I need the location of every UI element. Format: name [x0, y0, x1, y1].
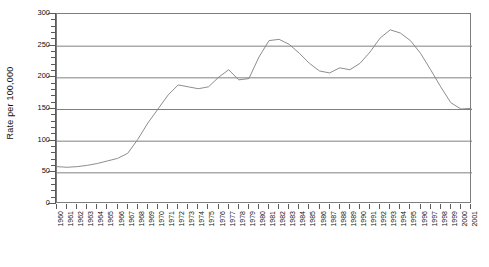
- y-axis-tick-minor: [51, 57, 56, 58]
- x-axis-tick: [66, 204, 67, 209]
- x-axis-tick: [470, 204, 471, 209]
- y-axis-tick-minor: [51, 165, 56, 166]
- y-axis-tick-minor: [51, 127, 56, 128]
- y-axis-tick-minor: [51, 83, 56, 84]
- y-axis-tick-minor: [51, 121, 56, 122]
- x-axis-tick-label: 1968: [132, 211, 142, 251]
- y-axis-tick-minor: [51, 95, 56, 96]
- y-axis-tick-minor: [51, 102, 56, 103]
- y-axis-tick-major: [48, 13, 56, 14]
- x-axis-tick-label: 1992: [374, 211, 384, 251]
- y-axis-tick-minor: [51, 32, 56, 33]
- x-axis-tick-label: 1985: [303, 211, 313, 251]
- y-axis-tick-minor: [51, 133, 56, 134]
- x-axis-tick: [278, 204, 279, 209]
- line-chart: Rate per 100,000 300250200150100500 1960…: [0, 0, 489, 267]
- y-axis-tick-major: [48, 140, 56, 141]
- x-axis-tick-label: 1971: [162, 211, 172, 251]
- x-axis-tick-label-text: 2001: [470, 211, 479, 227]
- x-axis-tick: [339, 204, 340, 209]
- x-axis-tick: [177, 204, 178, 209]
- x-axis-tick-label: 1987: [324, 211, 334, 251]
- y-axis-tick-minor: [51, 51, 56, 52]
- x-axis-tick-label: 1993: [384, 211, 394, 251]
- x-axis-tick: [430, 204, 431, 209]
- x-axis-tick: [369, 204, 370, 209]
- x-axis-tick-label: 1981: [263, 211, 273, 251]
- x-axis-tick: [420, 204, 421, 209]
- x-axis-tick-label: 1995: [404, 211, 414, 251]
- x-axis-tick: [218, 204, 219, 209]
- x-axis-tick: [76, 204, 77, 209]
- x-axis-tick-label: 1975: [202, 211, 212, 251]
- y-axis-tick-minor: [51, 146, 56, 147]
- y-axis-tick-minor: [51, 184, 56, 185]
- x-axis-tick: [298, 204, 299, 209]
- x-axis-tick-label: 1980: [253, 211, 263, 251]
- x-axis-tick: [187, 204, 188, 209]
- y-axis-tick-minor: [51, 89, 56, 90]
- y-axis-tick-major: [48, 203, 56, 204]
- x-axis-tick: [207, 204, 208, 209]
- y-axis-tick-major: [48, 171, 56, 172]
- x-axis-tick-label: 2001: [465, 211, 475, 251]
- x-axis-tick: [56, 204, 57, 209]
- x-axis-tick-label: 1979: [243, 211, 253, 251]
- y-axis-tick-minor: [51, 38, 56, 39]
- x-axis-tick: [288, 204, 289, 209]
- x-axis-tick-label: 1970: [152, 211, 162, 251]
- x-axis-tick: [389, 204, 390, 209]
- x-axis-tick: [379, 204, 380, 209]
- x-axis-tick: [329, 204, 330, 209]
- x-axis-tick-label: 1982: [273, 211, 283, 251]
- x-axis-tick-label: 1984: [293, 211, 303, 251]
- x-axis-tick: [238, 204, 239, 209]
- x-axis-tick-label: 1989: [344, 211, 354, 251]
- x-axis-tick-label: 1977: [223, 211, 233, 251]
- y-axis-tick-minor: [51, 190, 56, 191]
- x-axis-tick-label: 1964: [91, 211, 101, 251]
- x-axis-tick: [248, 204, 249, 209]
- x-axis-tick: [349, 204, 350, 209]
- x-axis-tick: [106, 204, 107, 209]
- x-axis-tick-label: 1999: [445, 211, 455, 251]
- x-axis-tick: [127, 204, 128, 209]
- x-axis-tick: [96, 204, 97, 209]
- x-axis-tick-label: 1962: [71, 211, 81, 251]
- x-axis-tick-label: 1972: [172, 211, 182, 251]
- y-axis-tick-minor: [51, 26, 56, 27]
- x-axis-tick-label: 1996: [415, 211, 425, 251]
- x-axis-tick: [258, 204, 259, 209]
- x-axis-tick-label: 1986: [314, 211, 324, 251]
- x-axis-tick-label: 1991: [364, 211, 374, 251]
- x-axis-tick-label: 1967: [122, 211, 132, 251]
- x-axis-tick-label: 1994: [394, 211, 404, 251]
- y-axis-tick-minor: [51, 114, 56, 115]
- x-axis-tick: [308, 204, 309, 209]
- x-axis-tick-label: 1983: [283, 211, 293, 251]
- x-axis-tick-label: 1990: [354, 211, 364, 251]
- x-axis-tick-label: 1963: [81, 211, 91, 251]
- y-axis-tick-major: [48, 45, 56, 46]
- x-axis-tick: [399, 204, 400, 209]
- x-axis-tick-label: 1973: [182, 211, 192, 251]
- x-axis-tick: [167, 204, 168, 209]
- y-axis-tick-minor: [51, 64, 56, 65]
- y-axis-tick-major: [48, 108, 56, 109]
- x-axis-tick-label: 1997: [425, 211, 435, 251]
- x-axis-tick-label: 1969: [142, 211, 152, 251]
- x-axis-tick: [460, 204, 461, 209]
- x-axis-tick: [450, 204, 451, 209]
- x-axis-tick: [359, 204, 360, 209]
- y-axis-tick-minor: [51, 197, 56, 198]
- x-axis-tick: [137, 204, 138, 209]
- x-axis-tick: [147, 204, 148, 209]
- x-axis-tick: [86, 204, 87, 209]
- x-axis-tick: [157, 204, 158, 209]
- y-axis-tick-minor: [51, 152, 56, 153]
- x-axis-tick-label: 1974: [192, 211, 202, 251]
- y-axis-tick-minor: [51, 19, 56, 20]
- x-axis-tick-label: 1998: [435, 211, 445, 251]
- x-axis-tick-label: 1978: [233, 211, 243, 251]
- x-axis-tick-label: 1988: [334, 211, 344, 251]
